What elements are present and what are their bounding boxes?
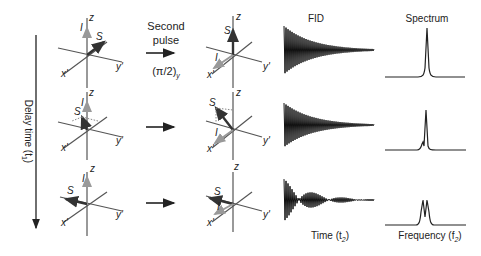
svg-text:y': y' <box>262 61 271 72</box>
nmr-diagram: zI Sx' y' zS Ix' y' zI Sx' y' zS Ix' <box>0 0 481 256</box>
spectrum-row2 <box>385 110 466 150</box>
svg-text:S: S <box>67 185 74 196</box>
svg-text:y': y' <box>115 135 124 146</box>
frame-row2-before: zI Sx' y' <box>58 87 124 160</box>
svg-text:x': x' <box>60 217 69 228</box>
svg-text:I: I <box>80 22 83 33</box>
svg-text:S: S <box>214 186 221 197</box>
svg-text:S: S <box>224 25 231 36</box>
frame-row2-after: zS Ix' y' <box>206 87 271 160</box>
svg-text:x': x' <box>206 143 215 154</box>
frame-row3-after: zS Ix' y' <box>206 161 271 232</box>
svg-text:z: z <box>89 163 95 174</box>
svg-text:y': y' <box>262 209 271 220</box>
svg-text:z: z <box>233 161 239 172</box>
svg-text:S: S <box>209 97 216 108</box>
svg-text:I: I <box>82 173 85 184</box>
frame-row3-before: zI Sx' y' <box>60 163 124 236</box>
svg-text:I: I <box>217 201 220 212</box>
svg-text:S: S <box>74 106 81 117</box>
svg-text:x': x' <box>206 69 215 80</box>
svg-text:z: z <box>235 11 241 22</box>
spectrum-row3 <box>385 200 466 225</box>
svg-text:z: z <box>88 12 94 23</box>
svg-text:x': x' <box>60 142 69 153</box>
svg-text:S: S <box>96 31 103 42</box>
svg-text:z: z <box>235 87 241 98</box>
svg-text:y': y' <box>115 61 124 72</box>
svg-text:y': y' <box>115 209 124 220</box>
svg-text:z: z <box>88 87 94 98</box>
svg-text:I: I <box>81 97 84 108</box>
svg-text:I: I <box>215 127 218 138</box>
svg-text:x': x' <box>206 217 215 228</box>
svg-text:x': x' <box>60 68 69 79</box>
fid-row1 <box>284 26 374 73</box>
frame-row1-after: zS Ix' y' <box>206 11 271 88</box>
frame-row1-before: zI Sx' y' <box>58 12 124 88</box>
fid-row2 <box>284 103 374 146</box>
spectrum-row1 <box>385 28 465 77</box>
svg-text:I: I <box>215 52 218 63</box>
fid-row3 <box>284 179 374 220</box>
svg-text:y': y' <box>262 135 271 146</box>
